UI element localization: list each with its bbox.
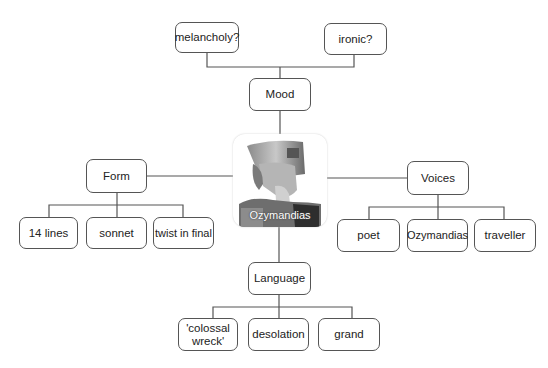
node-melancholy[interactable]: melancholy? — [175, 22, 239, 53]
node-twist-in-final[interactable]: twist in final — [153, 217, 214, 249]
center-node-ozymandias[interactable]: Ozymandias — [233, 134, 327, 227]
node-desolation[interactable]: desolation — [248, 318, 309, 351]
node-mood[interactable]: Mood — [249, 78, 311, 111]
node-language[interactable]: Language — [248, 262, 311, 295]
node-sonnet[interactable]: sonnet — [86, 217, 147, 249]
mind-map: melancholy? ironic? Mood O — [0, 0, 548, 368]
node-grand[interactable]: grand — [318, 318, 380, 351]
node-form[interactable]: Form — [86, 159, 147, 193]
node-ozymandias[interactable]: Ozymandias — [407, 219, 468, 252]
node-traveller[interactable]: traveller — [474, 219, 536, 252]
center-label: Ozymandias — [233, 209, 327, 221]
node-14-lines[interactable]: 14 lines — [19, 217, 78, 249]
node-voices[interactable]: Voices — [407, 161, 469, 195]
node-colossal-wreck[interactable]: 'colossal wreck' — [178, 318, 238, 351]
node-ironic[interactable]: ironic? — [324, 23, 387, 55]
node-poet[interactable]: poet — [337, 219, 400, 252]
